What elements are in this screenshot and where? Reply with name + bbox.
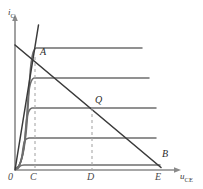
transistor-characteristics-figure: iC uCE 0 C D E A Q B: [0, 0, 203, 189]
tick-label-origin: 0: [8, 172, 13, 182]
projection-lines-group: [35, 57, 92, 170]
point-label-q: Q: [95, 95, 102, 105]
tick-label-c: C: [30, 172, 37, 182]
point-label-b: B: [162, 149, 168, 159]
y-axis-label-subscript: C: [11, 12, 16, 19]
x-axis-label: uCE: [180, 172, 193, 183]
characteristic-curve-5: [16, 165, 160, 170]
characteristic-curves-group: [16, 48, 160, 170]
point-label-a: A: [40, 47, 46, 57]
tick-label-d: D: [87, 172, 94, 182]
dc-load-line: [15, 45, 161, 168]
characteristic-curve-2: [16, 78, 149, 168]
y-axis-label: iC: [8, 8, 15, 19]
tick-label-e: E: [155, 172, 161, 182]
x-axis-label-subscript: CE: [185, 176, 194, 183]
